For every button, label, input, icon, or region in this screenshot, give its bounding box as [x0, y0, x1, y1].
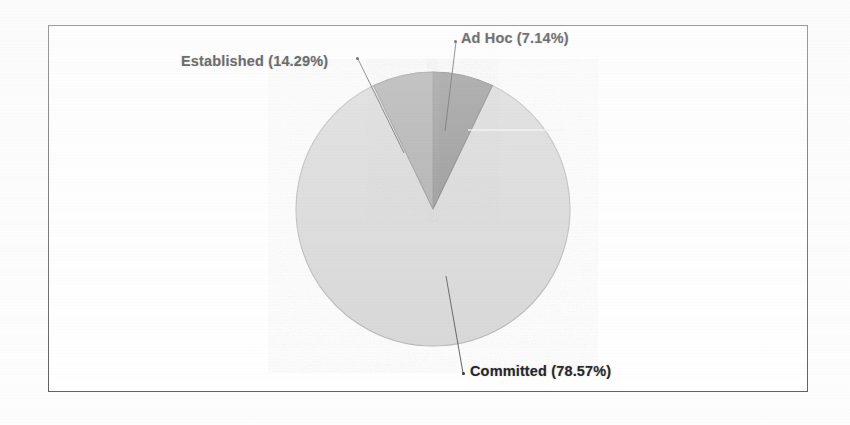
chart-screenshot: Established (14.29%) Ad Hoc (7.14%) Comm…: [0, 0, 850, 425]
pie-label-established: Established (14.29%): [181, 53, 328, 69]
leader-dot-committed: [462, 372, 465, 375]
leader-dot-ad-hoc: [454, 40, 457, 43]
pie-label-ad-hoc: Ad Hoc (7.14%): [461, 30, 569, 46]
pie-label-committed: Committed (78.57%): [470, 363, 611, 379]
leader-dot-established: [356, 57, 359, 60]
pie-chart: [0, 0, 850, 425]
